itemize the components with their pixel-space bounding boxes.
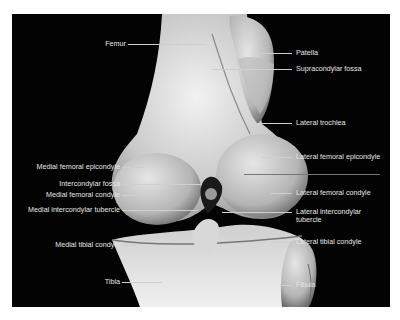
- label-line-2: tubercle: [296, 216, 361, 224]
- leader-line-medial-tibial-condyle: [122, 245, 136, 246]
- label-femur: Femur: [72, 40, 126, 48]
- label-medial-femoral-condyle: Medial femoral condyle: [18, 191, 120, 199]
- label-patella: Patella: [296, 49, 318, 57]
- knee-3d-ct-image: Femur Medial femoral epicondyle Intercon…: [12, 14, 390, 307]
- label-medial-intercondylar-tubercle: Medial intercondylar tubercle: [12, 206, 120, 214]
- label-medial-femoral-epicondyle: Medial femoral epicondyle: [18, 163, 120, 171]
- label-lateral-intercondylar-tubercle: Lateral intercondylar tubercle: [296, 208, 361, 224]
- leader-line-medial-femoral-epicondyle: [122, 167, 144, 168]
- label-tibia: Tibia: [72, 278, 120, 286]
- label-fibula: Fibula: [296, 281, 316, 289]
- leader-line-femur: [128, 44, 206, 45]
- label-supracondylar-fossa: Supracondylar fossa: [296, 65, 362, 73]
- leader-line-lateral-femoral-epicondyle: [262, 157, 292, 158]
- label-lateral-femoral-epicondyle: Lateral femoral epicondyle: [296, 153, 380, 161]
- leader-line-medial-intercondylar-tubercle: [122, 210, 198, 211]
- leader-line-lateral-intercondylar-tubercle: [222, 212, 292, 213]
- leader-line-intercondylar-fossa: [122, 184, 202, 185]
- label-lateral-femoral-condyle: Lateral femoral condyle: [296, 189, 371, 197]
- label-lateral-trochlea: Lateral trochlea: [296, 119, 346, 127]
- leader-line-patella: [262, 53, 292, 54]
- leader-line-lateral-tibial-condyle: [274, 242, 292, 243]
- divider-line: [244, 174, 380, 175]
- label-lateral-tibial-condyle: Lateral tibial condyle: [296, 238, 362, 246]
- leader-line-tibia: [122, 282, 162, 283]
- leader-line-medial-femoral-condyle: [122, 195, 140, 196]
- leader-line-lateral-femoral-condyle: [270, 193, 292, 194]
- label-intercondylar-fossa: Intercondylar fossa: [32, 180, 120, 188]
- label-medial-tibial-condyle: Medial tibial condyle: [18, 241, 120, 249]
- leader-line-supracondylar-fossa: [212, 69, 292, 70]
- leader-line-lateral-trochlea: [257, 123, 292, 124]
- leader-line-fibula: [280, 285, 292, 286]
